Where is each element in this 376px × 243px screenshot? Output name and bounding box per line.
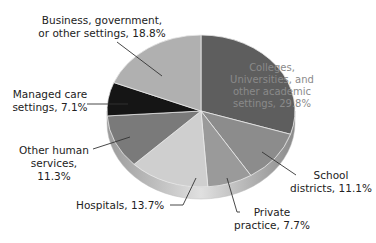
label-managed-line2: settings, 7.1% — [10, 101, 90, 114]
label-academic-line2: Universities, and — [222, 74, 322, 86]
label-hospitals: Hospitals, 13.7% — [76, 199, 164, 212]
pie-slices — [107, 35, 295, 187]
label-managed: Managed care settings, 7.1% — [10, 88, 90, 114]
label-business: Business, government, or other settings,… — [22, 14, 182, 40]
label-school: School districts, 11.1% — [286, 169, 376, 195]
label-academic: Colleges, Universities, and other academ… — [222, 62, 322, 110]
label-private-line1: Private — [232, 206, 312, 219]
label-business-line2: or other settings, 18.8% — [22, 27, 182, 40]
label-managed-line1: Managed care — [10, 88, 90, 101]
label-other-line1: Other human — [14, 144, 94, 157]
label-private-line2: practice, 7.7% — [232, 219, 312, 232]
label-academic-line3: other academic — [222, 86, 322, 98]
label-business-line1: Business, government, — [22, 14, 182, 27]
label-academic-line4: settings, 29.8% — [222, 98, 322, 110]
label-other-line2: services, 11.3% — [14, 157, 94, 183]
label-private: Private practice, 7.7% — [232, 206, 312, 232]
label-academic-line1: Colleges, — [222, 62, 322, 74]
label-school-line2: districts, 11.1% — [286, 182, 376, 195]
label-hospitals-line1: Hospitals, 13.7% — [76, 199, 164, 212]
label-other: Other human services, 11.3% — [14, 144, 94, 183]
label-school-line1: School — [286, 169, 376, 182]
